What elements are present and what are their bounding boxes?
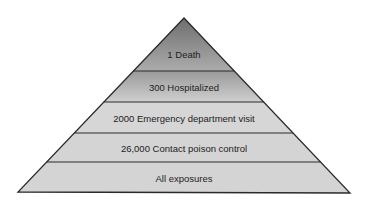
- tier-label-poison-control: 26,000 Contact poison control: [121, 143, 247, 154]
- tier-label-all-exposures: All exposures: [155, 173, 212, 184]
- pyramid-tier-death: [133, 18, 234, 71]
- tier-label-emergency: 2000 Emergency department visit: [113, 113, 255, 124]
- tier-label-hospitalized: 300 Hospitalized: [149, 82, 219, 93]
- tier-label-death: 1 Death: [167, 49, 200, 60]
- pyramid-diagram: 1 Death 300 Hospitalized 2000 Emergency …: [0, 0, 369, 204]
